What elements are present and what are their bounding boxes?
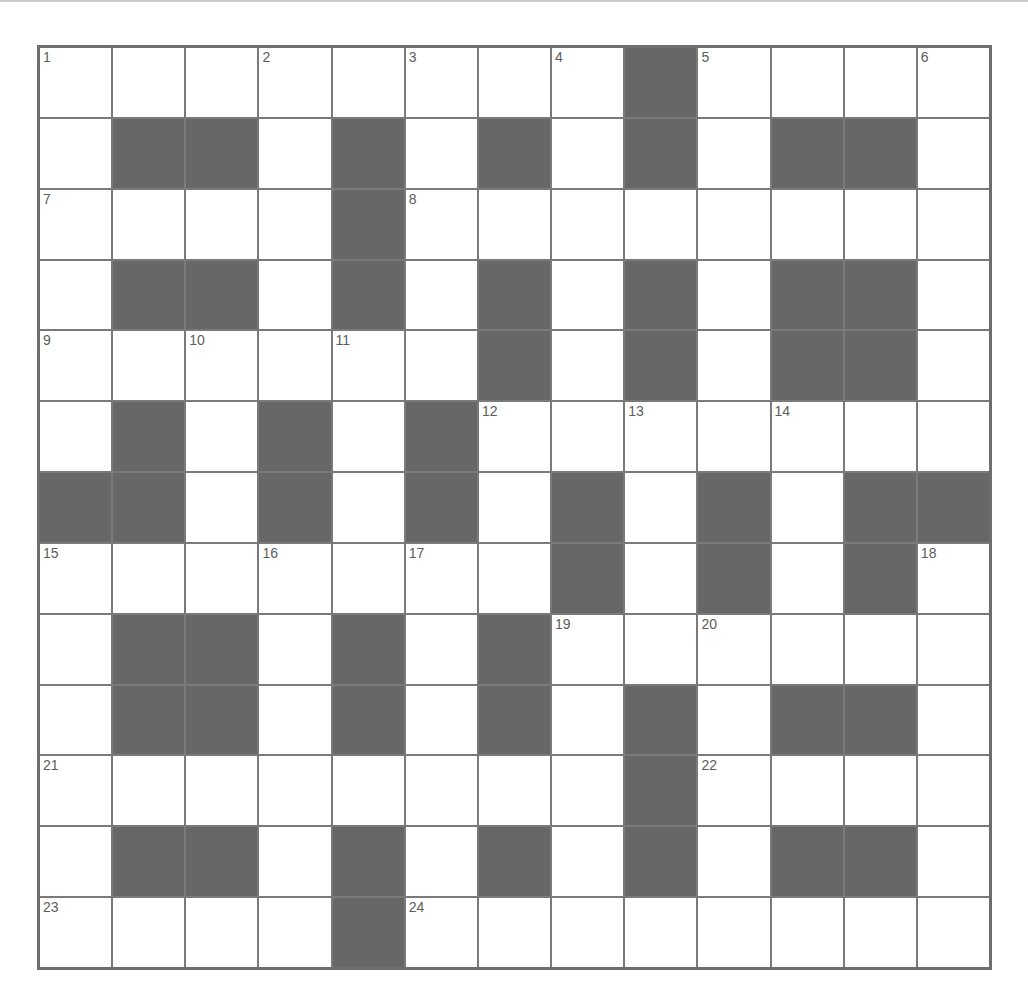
grid-cell[interactable]: 19 <box>552 615 623 684</box>
grid-cell[interactable] <box>552 898 623 967</box>
grid-cell[interactable] <box>625 615 696 684</box>
grid-cell[interactable] <box>918 119 989 188</box>
grid-cell[interactable] <box>406 827 477 896</box>
grid-cell[interactable] <box>845 402 916 471</box>
grid-cell[interactable]: 13 <box>625 402 696 471</box>
grid-cell[interactable] <box>259 119 330 188</box>
grid-cell[interactable]: 6 <box>918 48 989 117</box>
grid-cell[interactable]: 9 <box>40 331 111 400</box>
grid-cell[interactable] <box>698 898 769 967</box>
grid-cell[interactable] <box>698 119 769 188</box>
grid-cell[interactable]: 12 <box>479 402 550 471</box>
grid-cell[interactable]: 20 <box>698 615 769 684</box>
grid-cell[interactable] <box>698 261 769 330</box>
grid-cell[interactable] <box>259 261 330 330</box>
grid-cell[interactable] <box>40 261 111 330</box>
grid-cell[interactable] <box>845 615 916 684</box>
grid-cell[interactable] <box>625 544 696 613</box>
grid-cell[interactable]: 23 <box>40 898 111 967</box>
grid-cell[interactable] <box>259 827 330 896</box>
grid-cell[interactable] <box>918 686 989 755</box>
grid-cell[interactable]: 22 <box>698 756 769 825</box>
grid-cell[interactable] <box>772 48 843 117</box>
grid-cell[interactable] <box>918 190 989 259</box>
grid-cell[interactable]: 7 <box>40 190 111 259</box>
grid-cell[interactable] <box>845 898 916 967</box>
grid-cell[interactable] <box>772 544 843 613</box>
grid-cell[interactable]: 14 <box>772 402 843 471</box>
grid-cell[interactable] <box>259 331 330 400</box>
grid-cell[interactable] <box>113 190 184 259</box>
grid-cell[interactable] <box>186 544 257 613</box>
grid-cell[interactable] <box>259 190 330 259</box>
grid-cell[interactable] <box>698 190 769 259</box>
grid-cell[interactable] <box>259 686 330 755</box>
grid-cell[interactable] <box>552 331 623 400</box>
grid-cell[interactable] <box>113 898 184 967</box>
grid-cell[interactable]: 8 <box>406 190 477 259</box>
grid-cell[interactable] <box>772 190 843 259</box>
grid-cell[interactable] <box>845 190 916 259</box>
grid-cell[interactable] <box>113 331 184 400</box>
grid-cell[interactable] <box>845 756 916 825</box>
grid-cell[interactable] <box>40 827 111 896</box>
grid-cell[interactable]: 4 <box>552 48 623 117</box>
grid-cell[interactable] <box>406 615 477 684</box>
grid-cell[interactable]: 16 <box>259 544 330 613</box>
grid-cell[interactable] <box>479 48 550 117</box>
grid-cell[interactable] <box>772 756 843 825</box>
grid-cell[interactable] <box>479 190 550 259</box>
grid-cell[interactable] <box>772 898 843 967</box>
grid-cell[interactable] <box>918 331 989 400</box>
grid-cell[interactable] <box>625 898 696 967</box>
grid-cell[interactable] <box>918 261 989 330</box>
grid-cell[interactable] <box>113 48 184 117</box>
grid-cell[interactable] <box>552 190 623 259</box>
grid-cell[interactable] <box>186 898 257 967</box>
grid-cell[interactable] <box>552 827 623 896</box>
grid-cell[interactable] <box>186 402 257 471</box>
grid-cell[interactable] <box>113 756 184 825</box>
grid-cell[interactable] <box>552 756 623 825</box>
grid-cell[interactable]: 11 <box>333 331 404 400</box>
grid-cell[interactable] <box>406 261 477 330</box>
grid-cell[interactable] <box>698 686 769 755</box>
grid-cell[interactable]: 2 <box>259 48 330 117</box>
grid-cell[interactable] <box>259 898 330 967</box>
grid-cell[interactable] <box>552 686 623 755</box>
grid-cell[interactable] <box>479 898 550 967</box>
grid-cell[interactable] <box>918 402 989 471</box>
grid-cell[interactable] <box>552 261 623 330</box>
grid-cell[interactable] <box>40 615 111 684</box>
grid-cell[interactable] <box>845 48 916 117</box>
grid-cell[interactable] <box>333 402 404 471</box>
grid-cell[interactable] <box>552 402 623 471</box>
grid-cell[interactable] <box>625 473 696 542</box>
grid-cell[interactable] <box>406 119 477 188</box>
grid-cell[interactable] <box>259 756 330 825</box>
grid-cell[interactable] <box>406 686 477 755</box>
grid-cell[interactable] <box>479 756 550 825</box>
grid-cell[interactable] <box>259 615 330 684</box>
grid-cell[interactable] <box>186 190 257 259</box>
grid-cell[interactable] <box>918 827 989 896</box>
grid-cell[interactable] <box>40 402 111 471</box>
grid-cell[interactable] <box>552 119 623 188</box>
grid-cell[interactable] <box>406 756 477 825</box>
grid-cell[interactable]: 24 <box>406 898 477 967</box>
grid-cell[interactable]: 15 <box>40 544 111 613</box>
grid-cell[interactable] <box>186 756 257 825</box>
grid-cell[interactable] <box>625 190 696 259</box>
grid-cell[interactable] <box>186 48 257 117</box>
grid-cell[interactable] <box>479 544 550 613</box>
grid-cell[interactable] <box>406 331 477 400</box>
grid-cell[interactable] <box>333 473 404 542</box>
grid-cell[interactable]: 17 <box>406 544 477 613</box>
grid-cell[interactable]: 3 <box>406 48 477 117</box>
grid-cell[interactable] <box>772 473 843 542</box>
grid-cell[interactable] <box>698 331 769 400</box>
grid-cell[interactable] <box>698 827 769 896</box>
grid-cell[interactable] <box>333 544 404 613</box>
grid-cell[interactable] <box>918 898 989 967</box>
grid-cell[interactable]: 21 <box>40 756 111 825</box>
